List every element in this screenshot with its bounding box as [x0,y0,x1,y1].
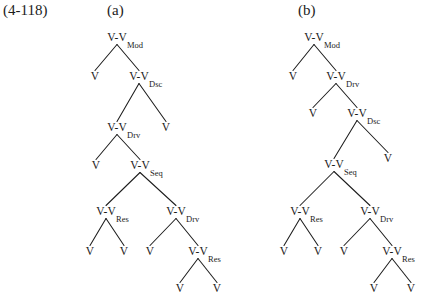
tree-node-branching: V-V [290,205,310,217]
tree-node-leaf: V [370,282,379,294]
tree-node-branching: V-V [107,31,127,43]
tree-node-leaf: V [407,282,416,294]
tree-branch [284,219,300,246]
tree-relation-label: Mod [127,40,144,50]
tree-node-branching: V-V [326,70,346,82]
tree-node-branching: V-V [347,107,367,119]
tree-node-leaf: V [162,121,171,133]
tree-node-branching: V-V [166,205,186,217]
tree-relation-label: Seq [344,167,358,177]
tree-branch [344,219,370,246]
tree-relation-label: Res [402,254,415,264]
tree-relation-label: Res [208,254,221,264]
tree-branch [334,121,357,159]
tree-branch [150,219,176,246]
tree-node-branching: V-V [304,31,324,43]
tree-node-branching: V-V [188,245,208,257]
panel-label-b: (b) [298,2,316,19]
tree-node-leaf: V [120,245,129,257]
tree-node-leaf: V [309,107,318,119]
tree-node-leaf: V [289,70,298,82]
tree-relation-label: Drv [380,214,394,224]
tree-branch [95,45,117,71]
tree-branch [180,259,198,283]
tree-branch [300,172,334,206]
tree-node-branching: V-V [129,70,149,82]
tree-node-leaf: V [146,245,155,257]
tree-branch [293,45,314,71]
tree-relation-label: Drv [186,214,200,224]
tree-relation-label: Dsc [367,116,380,126]
tree-node-leaf: V [280,245,289,257]
tree-relation-label: Drv [127,130,141,140]
tree-relation-label: Seq [150,168,164,178]
tree-node-branching: V-V [382,245,402,257]
tree-node-leaf: V [213,282,222,294]
tree-node-leaf: V [314,245,323,257]
tree-node-leaf: V [340,245,349,257]
tree-branch [117,84,139,122]
tree-node-branching: V-V [107,121,127,133]
tree-relation-label: Res [310,214,323,224]
tree-branch [96,135,117,160]
tree-node-leaf: V [86,245,95,257]
tree-branch [313,84,336,108]
tree-relation-label: Res [116,214,129,224]
tree-branch [106,173,140,206]
tree-node-branching: V-V [360,205,380,217]
equation-number: (4-118) [3,2,47,19]
tree-node-leaf: V [176,282,185,294]
tree-node-branching: V-V [324,158,344,170]
tree-relation-label: Drv [346,79,360,89]
panel-label-a: (a) [107,2,124,19]
tree-relation-label: Dsc [149,79,162,89]
tree-node-branching: V-V [130,159,150,171]
tree-a-nodes: V-VModVV-VDscV-VDrvVVV-VSeqV-VResV-VDrvV… [86,31,222,294]
tree-node-leaf: V [384,152,393,164]
tree-node-branching: V-V [96,205,116,217]
tree-branch [139,84,166,122]
tree-b-nodes: V-VModVV-VDrvVV-VDscV-VSeqVV-VResV-VDrvV… [280,31,416,294]
tree-node-leaf: V [92,159,101,171]
tree-branch [374,259,392,283]
tree-node-leaf: V [91,70,100,82]
tree-relation-label: Mod [324,40,341,50]
syntax-tree-figure: (4-118) (a) (b) V-VModVV-VDscV-VDrvVVV-V… [0,0,427,302]
tree-branch [90,219,106,246]
